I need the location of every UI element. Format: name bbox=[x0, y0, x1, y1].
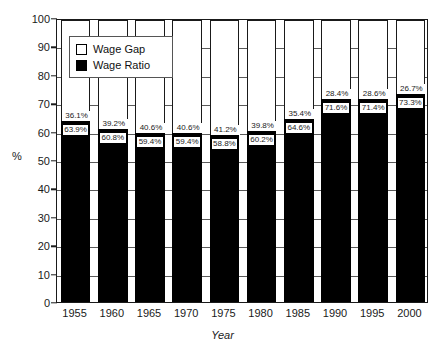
bar-label-wage-ratio: 71.4% bbox=[359, 102, 387, 114]
bar-label-wage-ratio: 59.4% bbox=[173, 136, 201, 148]
legend-item-wage-ratio: Wage Ratio bbox=[76, 57, 172, 73]
bar-segment-wage-ratio bbox=[135, 133, 165, 302]
bar-segment-wage-ratio bbox=[284, 119, 314, 302]
x-axis-tick-label: 1975 bbox=[211, 307, 235, 319]
x-axis-tick-label: 1980 bbox=[248, 307, 272, 319]
x-axis-tick-label: 1970 bbox=[174, 307, 198, 319]
bar-label-wage-ratio: 60.2% bbox=[248, 134, 276, 146]
legend-label-wage-gap: Wage Gap bbox=[93, 43, 145, 55]
x-axis-title: Year bbox=[0, 329, 445, 341]
bar-label-wage-ratio: 71.6% bbox=[322, 102, 350, 114]
bar-segment-wage-ratio bbox=[321, 99, 351, 302]
x-axis-tick-label: 1995 bbox=[360, 307, 384, 319]
bar-label-wage-gap: 35.4% bbox=[285, 109, 315, 119]
bar-label-wage-ratio: 63.9% bbox=[62, 124, 90, 136]
bar-label-wage-gap: 28.6% bbox=[359, 89, 389, 99]
bar-label-wage-ratio: 59.4% bbox=[136, 136, 164, 148]
bar-label-wage-ratio: 73.3% bbox=[397, 97, 425, 109]
bar-group bbox=[284, 20, 314, 302]
legend-label-wage-ratio: Wage Ratio bbox=[93, 59, 150, 71]
bar-label-wage-gap: 41.2% bbox=[211, 125, 241, 135]
bar-group bbox=[321, 20, 351, 302]
bar-group bbox=[358, 20, 388, 302]
legend-swatch-wage-ratio-icon bbox=[76, 60, 87, 71]
legend-swatch-wage-gap-icon bbox=[76, 44, 87, 55]
bar-group bbox=[210, 20, 240, 302]
bar-segment-wage-gap bbox=[284, 20, 314, 121]
bar-segment-wage-ratio bbox=[172, 133, 202, 302]
bar-segment-wage-ratio bbox=[396, 94, 426, 302]
bar-group bbox=[247, 20, 277, 302]
bar-label-wage-gap: 26.7% bbox=[397, 84, 427, 94]
bar-label-wage-ratio: 58.8% bbox=[211, 138, 239, 150]
x-axis-tick-label: 1955 bbox=[62, 307, 86, 319]
legend-item-wage-gap: Wage Gap bbox=[76, 41, 172, 57]
bar-label-wage-gap: 39.2% bbox=[99, 119, 129, 129]
x-axis-tick-label: 1960 bbox=[100, 307, 124, 319]
x-axis-tick-label: 1965 bbox=[137, 307, 161, 319]
bar-label-wage-gap: 39.8% bbox=[248, 121, 278, 131]
bar-segment-wage-ratio bbox=[358, 99, 388, 302]
bar-segment-wage-ratio bbox=[98, 129, 128, 302]
bar-label-wage-ratio: 64.6% bbox=[285, 122, 313, 134]
x-axis-tick-labels: 1955196019651970197519801985199019952000 bbox=[56, 307, 428, 323]
bar-group bbox=[396, 20, 426, 302]
bar-segment-wage-gap bbox=[247, 20, 277, 133]
bar-label-wage-ratio: 60.8% bbox=[99, 132, 127, 144]
y-axis-title: % bbox=[12, 150, 22, 162]
bar-label-wage-gap: 36.1% bbox=[62, 111, 92, 121]
bar-segment-wage-ratio bbox=[210, 135, 240, 302]
bar-label-wage-gap: 40.6% bbox=[136, 123, 166, 133]
bar-segment-wage-gap bbox=[172, 20, 202, 135]
wage-gap-ratio-chart: 0102030405060708090100 % 36.1%63.9%39.2%… bbox=[0, 0, 445, 351]
bar-segment-wage-ratio bbox=[247, 131, 277, 302]
bar-label-wage-gap: 28.4% bbox=[322, 89, 352, 99]
bar-label-wage-gap: 40.6% bbox=[173, 123, 203, 133]
bar-segment-wage-ratio bbox=[61, 121, 91, 302]
x-axis-tick-label: 1990 bbox=[323, 307, 347, 319]
x-axis-tick-label: 2000 bbox=[397, 307, 421, 319]
legend: Wage Gap Wage Ratio bbox=[69, 36, 173, 78]
bar-group bbox=[172, 20, 202, 302]
bar-segment-wage-gap bbox=[210, 20, 240, 137]
x-axis-tick-label: 1985 bbox=[286, 307, 310, 319]
